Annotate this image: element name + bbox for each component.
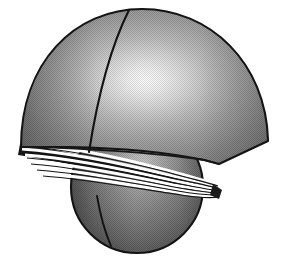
figure-canvas: Hemispherical dome over sphere with heli… [0,0,285,267]
illustration-svg: Hemispherical dome over sphere with heli… [0,0,285,267]
